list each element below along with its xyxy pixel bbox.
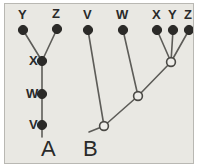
- internal-node-B-node-vwxyz: [100, 122, 109, 131]
- tip-label-A-Z: Z: [52, 6, 60, 21]
- panel-a-nodes: [18, 24, 61, 129]
- tip-label-B-X: X: [152, 7, 161, 22]
- internal-node-A-W: [37, 89, 46, 98]
- internal-node-A-X: [37, 56, 46, 65]
- panel-a-tip-labels: YZXWV: [18, 6, 60, 132]
- branch-V-to-node-vwxyz: [88, 30, 104, 126]
- panel-b-branches: [88, 30, 189, 132]
- internal-label-A-X: X: [29, 53, 38, 68]
- panel-b-label: B: [83, 136, 98, 161]
- branch-node-xyz-to-node-wxyz: [138, 62, 171, 96]
- figure-root: YZXWV VWXYZ A B: [0, 0, 200, 168]
- tip-label-B-W: W: [116, 7, 129, 22]
- internal-node-A-V: [37, 120, 46, 129]
- tip-node-B-Y: [168, 25, 177, 34]
- tip-node-B-Z: [184, 25, 193, 34]
- tip-node-A-Y: [18, 25, 27, 34]
- tip-label-B-V: V: [83, 7, 92, 22]
- internal-node-B-node-xyz: [167, 58, 176, 67]
- tip-node-B-X: [152, 25, 161, 34]
- panel-b-nodes: [83, 25, 193, 130]
- internal-node-B-node-wxyz: [134, 92, 143, 101]
- tip-label-B-Y: Y: [168, 7, 177, 22]
- tip-node-B-V: [83, 25, 92, 34]
- tip-node-A-Z: [52, 24, 61, 33]
- tip-node-B-W: [118, 25, 127, 34]
- panel-a-label: A: [41, 136, 56, 161]
- tip-label-A-Y: Y: [18, 7, 27, 22]
- branch-W-to-node-wxyz: [123, 30, 138, 96]
- branch-Z-to-X: [42, 29, 57, 61]
- branch-X-to-node-xyz: [157, 30, 171, 62]
- internal-label-A-V: V: [29, 117, 38, 132]
- tree-diagram-svg: YZXWV VWXYZ A B: [5, 4, 194, 164]
- tip-label-B-Z: Z: [184, 7, 192, 22]
- branch-node-wxyz-to-node-vwxyz: [104, 96, 138, 126]
- internal-label-A-W: W: [26, 86, 39, 101]
- scanned-figure-plate: YZXWV VWXYZ A B: [4, 3, 194, 164]
- panel-b-tip-labels: VWXYZ: [83, 7, 192, 22]
